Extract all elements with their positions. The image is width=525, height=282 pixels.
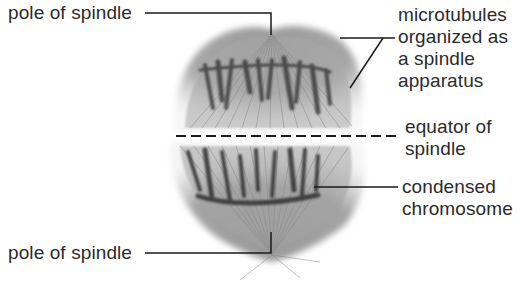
spindle-diagram: pole of spindle microtubules organized a… (0, 0, 525, 282)
upper-spindle-half (175, 26, 363, 132)
label-microtubules-line3: a spindle (398, 48, 508, 70)
label-microtubules-line1: microtubules (398, 4, 508, 26)
label-pole-bottom: pole of spindle (8, 242, 132, 264)
label-pole-bottom-text: pole of spindle (8, 242, 132, 264)
label-pole-top-text: pole of spindle (8, 2, 132, 24)
label-chromosome: condensed chromosome (402, 176, 513, 220)
label-chromosome-line1: condensed (402, 176, 513, 198)
label-pole-top: pole of spindle (8, 2, 132, 24)
label-equator-line1: equator of (405, 116, 492, 138)
label-equator-line2: spindle (405, 138, 492, 160)
label-microtubules-line2: organized as (398, 26, 508, 48)
label-microtubules: microtubules organized as a spindle appa… (398, 4, 508, 92)
label-microtubules-line4: apparatus (398, 70, 508, 92)
label-equator: equator of spindle (405, 116, 492, 160)
lower-spindle-half (170, 142, 365, 280)
label-chromosome-line2: chromosome (402, 198, 513, 220)
